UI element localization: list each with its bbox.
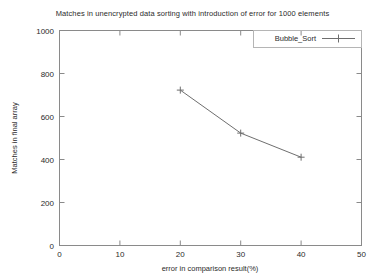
- series-polyline: [180, 90, 301, 157]
- y-tick-800: 800: [41, 70, 362, 79]
- y-axis: 0 200 400 600 800: [36, 27, 361, 251]
- y-tick-200: 200: [41, 199, 362, 208]
- y-axis-title: Matches in final array: [10, 102, 19, 174]
- data-point-marker: [177, 87, 184, 94]
- y-tick-label: 200: [41, 199, 55, 208]
- x-tick-10: 10: [115, 31, 124, 260]
- y-tick-label: 400: [41, 156, 55, 165]
- series-bubble-sort: [177, 87, 305, 161]
- plot-frame: [60, 31, 362, 246]
- y-tick-600: 600: [41, 113, 362, 122]
- y-tick-label: 600: [41, 113, 55, 122]
- x-tick-label: 20: [176, 250, 185, 259]
- legend-sample-line: [322, 35, 355, 43]
- data-point-marker: [237, 130, 244, 137]
- x-tick-label: 50: [357, 250, 366, 259]
- x-tick-label: 40: [297, 250, 306, 259]
- y-tick-400: 400: [41, 156, 362, 165]
- x-tick-30: 30: [236, 31, 245, 260]
- plot-area: 0 200 400 600 800: [0, 0, 385, 279]
- y-tick-label: 800: [41, 70, 55, 79]
- chart-screenshot: Matches in unencrypted data sorting with…: [0, 0, 385, 279]
- y-tick-label: 0: [50, 242, 55, 251]
- x-axis-title: error in comparison result(%): [162, 264, 259, 273]
- x-tick-40: 40: [297, 31, 306, 260]
- x-tick-label: 10: [115, 250, 124, 259]
- legend-entry-label: Bubble_Sort: [275, 34, 317, 43]
- y-tick-label: 1000: [36, 27, 54, 36]
- data-point-marker: [298, 154, 305, 161]
- x-tick-20: 20: [176, 31, 185, 260]
- legend: Bubble_Sort: [254, 31, 362, 48]
- x-tick-label: 0: [57, 250, 62, 259]
- x-tick-label: 30: [236, 250, 245, 259]
- x-axis: 0 10 20 30 40: [57, 31, 366, 260]
